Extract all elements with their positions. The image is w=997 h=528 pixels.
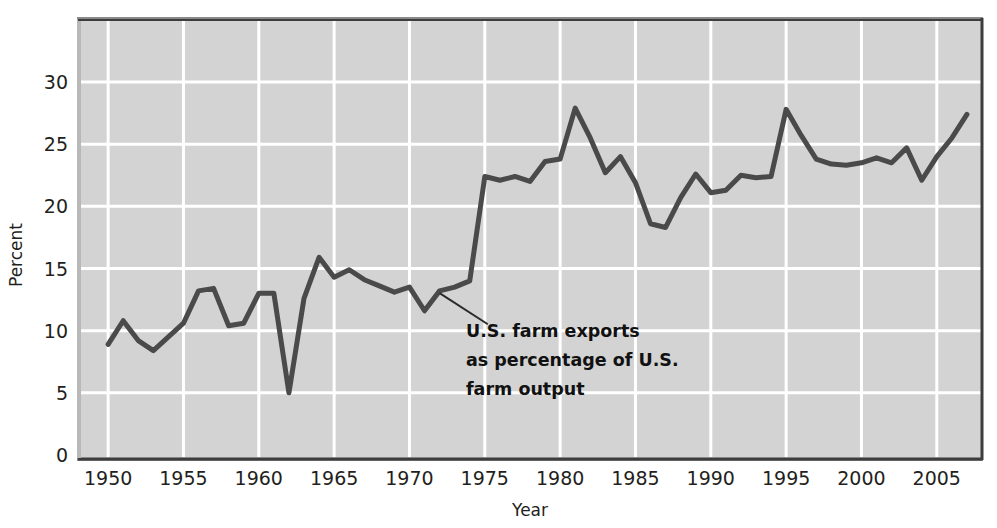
x-tick-label-1975: 1975 [461,467,509,489]
x-tick-label-1960: 1960 [235,467,283,489]
x-axis-tick-labels: 1950195519601965197019751980198519901995… [84,467,961,489]
annotation-line-1: U.S. farm exports [466,321,640,341]
annotation-line-3: farm output [466,379,585,399]
y-tick-label-5: 5 [56,382,68,404]
x-tick-label-1950: 1950 [84,467,132,489]
y-axis-title: Percent [6,223,26,287]
x-tick-label-1990: 1990 [687,467,735,489]
x-tick-label-1985: 1985 [611,467,659,489]
x-tick-label-1980: 1980 [536,467,584,489]
x-tick-label-1970: 1970 [385,467,433,489]
y-tick-label-10: 10 [44,320,68,342]
x-tick-label-2000: 2000 [837,467,885,489]
y-tick-label-25: 25 [44,133,68,155]
y-axis-tick-labels: 051015202530 [44,71,68,466]
x-axis-title: Year [511,500,548,520]
y-tick-label-20: 20 [44,195,68,217]
y-tick-label-30: 30 [44,71,68,93]
y-tick-label-0: 0 [56,444,68,466]
x-tick-label-2005: 2005 [913,467,961,489]
x-tick-label-1965: 1965 [310,467,358,489]
x-tick-label-1995: 1995 [762,467,810,489]
y-tick-label-15: 15 [44,258,68,280]
annotation-line-2: as percentage of U.S. [466,350,679,370]
x-tick-label-1955: 1955 [159,467,207,489]
chart-figure: 051015202530 195019551960196519701975198… [0,0,997,528]
